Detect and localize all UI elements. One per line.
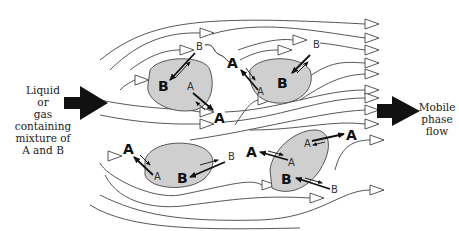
svg-text:A: A — [246, 144, 257, 160]
mobile-phase-label: Mobile phase flow — [414, 101, 459, 137]
flow-lines — [90, 20, 370, 229]
svg-text:B: B — [158, 78, 169, 94]
svg-text:B: B — [331, 184, 338, 195]
label-line: flow — [414, 125, 459, 137]
input-mixture-label: Liquid or gas containing mixture of A an… — [12, 84, 74, 156]
label-line: A and B — [12, 144, 74, 156]
svg-text:A: A — [214, 110, 225, 126]
svg-text:A: A — [154, 171, 161, 182]
svg-text:A: A — [257, 86, 264, 97]
svg-text:A: A — [187, 81, 194, 92]
svg-text:B: B — [196, 41, 203, 52]
label-line: or — [12, 96, 74, 108]
label-line: phase — [414, 113, 459, 125]
svg-text:B: B — [177, 170, 188, 186]
svg-text:B: B — [277, 75, 288, 91]
svg-text:A: A — [123, 141, 134, 157]
label-line: gas — [12, 108, 74, 120]
svg-text:A: A — [227, 55, 238, 71]
svg-text:B: B — [281, 171, 292, 187]
label-line: Mobile — [414, 101, 459, 113]
label-line: mixture of — [12, 132, 74, 144]
svg-text:B: B — [228, 151, 235, 162]
label-line: Liquid — [12, 84, 74, 96]
label-line: containing — [12, 120, 74, 132]
svg-text:A: A — [346, 127, 357, 143]
svg-text:B: B — [313, 39, 320, 50]
svg-text:A: A — [304, 138, 311, 149]
svg-text:A: A — [288, 157, 295, 168]
